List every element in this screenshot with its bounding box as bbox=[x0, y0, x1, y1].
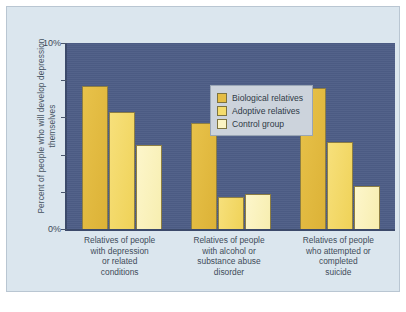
bar bbox=[109, 112, 135, 229]
legend-item-label: Adoptive relatives bbox=[232, 106, 300, 116]
y-axis: Percent of people who will develop depre… bbox=[17, 7, 61, 293]
x-axis-label-line: completed bbox=[319, 256, 358, 266]
bar bbox=[354, 186, 380, 229]
legend-item-label: Biological relatives bbox=[232, 93, 303, 103]
x-axis-label-line: conditions bbox=[101, 267, 139, 277]
x-axis-label-line: with alcohol or bbox=[202, 246, 256, 256]
legend-item[interactable]: Control group bbox=[217, 117, 303, 130]
x-axis-label-line: suicide bbox=[325, 267, 351, 277]
bar bbox=[191, 123, 217, 229]
x-axis-label-line: or related bbox=[102, 256, 137, 266]
x-axis-category-label: Relatives of peoplewith alcohol orsubsta… bbox=[174, 235, 283, 277]
bar bbox=[327, 142, 353, 229]
x-axis-label-line: disorder bbox=[214, 267, 244, 277]
y-axis-tickmark bbox=[61, 229, 67, 230]
legend-swatch-icon bbox=[217, 106, 227, 116]
x-axis-label-line: with depression bbox=[91, 246, 149, 256]
x-axis-label-line: Relatives of people bbox=[84, 235, 155, 245]
y-axis-tick-label-min: 0% bbox=[27, 224, 61, 234]
bar bbox=[245, 194, 271, 229]
chart-figure: Percent of people who will develop depre… bbox=[6, 6, 400, 292]
y-axis-tick-label-max: 10% bbox=[27, 38, 61, 48]
legend-swatch-icon bbox=[217, 119, 227, 129]
bar-group bbox=[300, 43, 380, 229]
bar bbox=[218, 197, 244, 229]
x-axis-label-line: Relatives of people bbox=[193, 235, 264, 245]
bar-group bbox=[191, 43, 271, 229]
legend-item-label: Control group bbox=[232, 119, 284, 129]
plot-area: Biological relativesAdoptive relativesCo… bbox=[65, 43, 395, 231]
bar-group bbox=[82, 43, 162, 229]
chart-legend: Biological relativesAdoptive relativesCo… bbox=[210, 85, 313, 136]
x-axis-category-labels: Relatives of peoplewith depressionor rel… bbox=[65, 235, 393, 277]
x-axis-label-line: who attempted or bbox=[306, 246, 371, 256]
x-axis-category-label: Relatives of peoplewho attempted orcompl… bbox=[284, 235, 393, 277]
x-axis-category-label: Relatives of peoplewith depressionor rel… bbox=[65, 235, 174, 277]
legend-item[interactable]: Adoptive relatives bbox=[217, 104, 303, 117]
x-axis-label-line: substance abuse bbox=[197, 256, 260, 266]
bar bbox=[82, 86, 108, 229]
x-axis-label-line: Relatives of people bbox=[303, 235, 374, 245]
bar bbox=[136, 145, 162, 229]
legend-item[interactable]: Biological relatives bbox=[217, 91, 303, 104]
legend-swatch-icon bbox=[217, 93, 227, 103]
bar-groups bbox=[67, 43, 395, 229]
